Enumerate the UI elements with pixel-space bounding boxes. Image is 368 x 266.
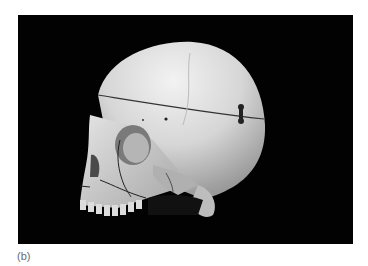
- skull-illustration: [18, 15, 353, 244]
- figure-caption: (b): [17, 250, 30, 263]
- skull-photograph: [18, 15, 353, 244]
